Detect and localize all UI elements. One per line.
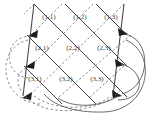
node-label-3-3: (3,3) bbox=[90, 75, 104, 83]
lattice-diagram-canvas: (1,1) (1,2) (1,3) (2,1) (2,2) (2,3) (3,1… bbox=[0, 0, 157, 125]
node-label-3-1: (3,1) bbox=[28, 75, 42, 83]
node-label-1-2: (1,2) bbox=[73, 13, 87, 21]
node-label-2-1: (2,1) bbox=[35, 44, 49, 52]
node-label-2-3: (2,3) bbox=[97, 44, 111, 52]
node-label-1-3: (1,3) bbox=[104, 13, 118, 21]
node-label-1-1: (1,1) bbox=[42, 13, 56, 21]
node-label-3-2: (3,2) bbox=[59, 75, 73, 83]
lattice-diagram-figure: (1,1) (1,2) (1,3) (2,1) (2,2) (2,3) (3,1… bbox=[0, 0, 157, 125]
node-label-2-2: (2,2) bbox=[66, 44, 80, 52]
